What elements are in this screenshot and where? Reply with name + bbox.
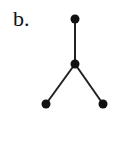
node-bottom-right (99, 100, 108, 109)
edge-center-bottom-right (75, 64, 103, 104)
tree-graph (0, 0, 125, 141)
node-bottom-left (42, 100, 51, 109)
node-top (71, 15, 80, 24)
node-center (71, 60, 80, 69)
edge-center-bottom-left (46, 64, 75, 104)
